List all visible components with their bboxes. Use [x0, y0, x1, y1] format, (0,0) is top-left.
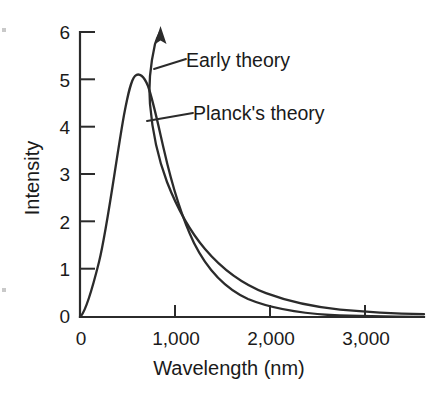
- plancks-theory-annotation: Planck's theory: [193, 102, 325, 124]
- y-tick-label-5: 5: [59, 70, 70, 91]
- y-tick-label-2: 2: [59, 212, 70, 233]
- early-theory-arrowhead: [155, 26, 167, 45]
- x-tick-label-2000: 2,000: [247, 328, 295, 349]
- blackbody-radiation-chart: Early theory Planck's theory 6 5 4 3 2 1…: [0, 0, 437, 398]
- y-tick-label-6: 6: [59, 22, 70, 43]
- x-tick-label-0: 0: [76, 328, 87, 349]
- x-tick-labels: 0 1,000 2,000 3,000: [76, 328, 390, 349]
- axes: [80, 32, 424, 317]
- y-tick-label-0: 0: [59, 306, 70, 327]
- x-tick-label-3000: 3,000: [342, 328, 390, 349]
- early-theory-annotation: Early theory: [186, 49, 290, 71]
- chart-svg: Early theory Planck's theory 6 5 4 3 2 1…: [0, 0, 437, 398]
- x-axis-title: Wavelength (nm): [153, 357, 305, 379]
- plancks-theory-leader-line: [147, 113, 193, 121]
- x-tick-label-1000: 1,000: [152, 328, 200, 349]
- early-theory-leader-line: [154, 59, 186, 69]
- y-tick-label-1: 1: [59, 259, 70, 280]
- y-tick-label-3: 3: [59, 164, 70, 185]
- annotation-text-group: Early theory Planck's theory: [186, 49, 325, 124]
- y-tick-label-4: 4: [59, 117, 70, 138]
- y-tick-labels: 6 5 4 3 2 1 0: [59, 22, 70, 327]
- early-theory-curve: [149, 32, 424, 314]
- y-axis-title: Intensity: [21, 141, 43, 215]
- scan-speck-bottom: [2, 288, 6, 292]
- scan-speck-top: [2, 28, 6, 32]
